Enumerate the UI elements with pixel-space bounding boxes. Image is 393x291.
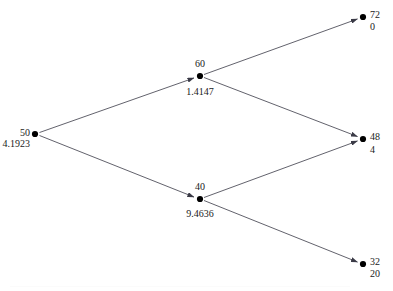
- node-dot-up-up: [360, 14, 366, 20]
- node-up-option-value: 1.4147: [175, 86, 225, 97]
- edge-down-to-mid: [204, 141, 358, 198]
- edge-down-to-downdown: [204, 201, 358, 263]
- node-root-option-value: 4.1923: [0, 138, 30, 149]
- node-up-up-option-value: 0: [370, 21, 393, 32]
- node-dot-down-down: [360, 261, 366, 267]
- node-up-up-asset-price: 72: [370, 9, 393, 20]
- node-down-down-option-value: 20: [370, 268, 393, 279]
- node-down-asset-price: 40: [180, 181, 220, 192]
- edge-up-to-upup: [204, 19, 358, 75]
- footer-divider: [10, 286, 350, 287]
- node-dot-down: [197, 196, 203, 202]
- node-dot-root: [32, 131, 38, 137]
- node-up-asset-price: 60: [180, 58, 220, 69]
- edge-root-to-down: [40, 136, 195, 198]
- edge-root-to-up: [40, 78, 195, 133]
- tree-edges-canvas: [0, 0, 393, 291]
- node-root-asset-price: 50: [0, 127, 30, 138]
- edge-group: [40, 19, 358, 262]
- node-down-option-value: 9.4636: [175, 208, 225, 219]
- binomial-tree-figure: 50 4.1923 60 1.4147 40 9.4636 72 0 48 4 …: [0, 0, 393, 291]
- node-mid-asset-price: 48: [370, 131, 393, 142]
- edge-up-to-mid: [204, 78, 358, 137]
- node-dot-group: [32, 14, 366, 267]
- node-down-down-asset-price: 32: [370, 256, 393, 267]
- node-dot-up: [197, 73, 203, 79]
- node-mid-option-value: 4: [370, 144, 393, 155]
- node-dot-mid: [360, 136, 366, 142]
